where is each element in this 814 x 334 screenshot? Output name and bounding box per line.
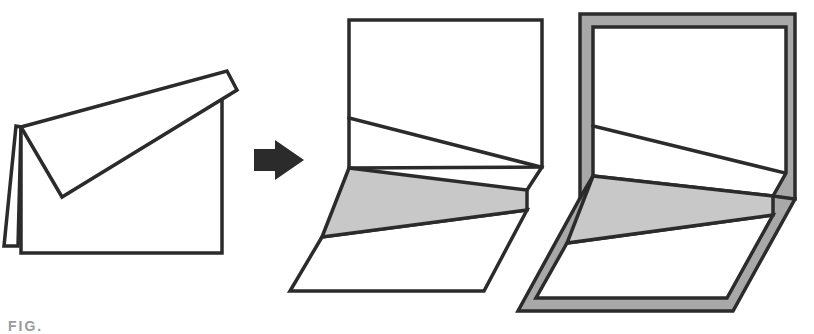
folded-card-panel [4,71,237,253]
figure-caption: FIG. [8,318,43,334]
top-leaf [349,20,542,168]
back-leaf [4,126,21,246]
inner-top-leaf [593,27,786,196]
opened-card-panel [290,20,542,291]
framed-card-panel [518,14,795,311]
right-arrow-icon [254,140,304,180]
